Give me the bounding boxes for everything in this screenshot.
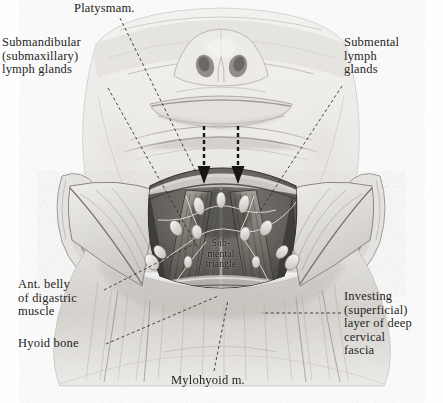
label-hyoid-bone: Hyoid bone	[18, 337, 79, 351]
label-anterior-belly-digastric: Ant. belly of digastric muscle	[18, 278, 77, 319]
dissection-field	[142, 168, 304, 292]
label-submental-lymph-glands: Submental lymph glands	[344, 36, 399, 77]
label-submental-triangle: Sub- mental triangle	[186, 238, 256, 270]
label-platysma: Platysmam.	[74, 2, 135, 16]
label-investing-layer-fascia: Investing (superficial) layer of deep ce…	[344, 290, 412, 358]
label-submandibular-lymph-glands: Submandibular (submaxillary) lymph gland…	[2, 36, 81, 77]
label-mylohyoid-muscle: Mylohyoid m.	[171, 374, 245, 388]
